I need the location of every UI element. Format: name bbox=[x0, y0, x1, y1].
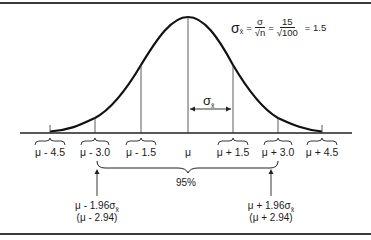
ci-upper-expression: μ + 1.96σ bbox=[248, 200, 291, 211]
fraction-15-over-root-100: 15 √100 bbox=[277, 17, 298, 38]
tick-label-minus-3-0: μ - 3.0 bbox=[80, 146, 110, 158]
std-error-label: σx̄ bbox=[203, 93, 215, 108]
denominator: √n bbox=[255, 28, 266, 38]
result: = 1.5 bbox=[305, 22, 326, 33]
ci-lower-value: (μ - 2.94) bbox=[75, 212, 119, 223]
sigma-symbol: σ bbox=[203, 93, 211, 108]
xbar-subscript: x̄ bbox=[291, 206, 295, 213]
ci-lower-expression: μ - 1.96σ bbox=[75, 200, 115, 211]
ci-upper-value: (μ + 2.94) bbox=[248, 212, 294, 223]
equals-sign: = bbox=[268, 22, 274, 33]
denominator: √100 bbox=[277, 28, 298, 38]
tick-label-plus-3-0: μ + 3.0 bbox=[262, 146, 295, 158]
tick-label-mu: μ bbox=[185, 146, 191, 158]
xbar-subscript: x̄ bbox=[211, 102, 215, 109]
xbar-subscript: x̄ bbox=[115, 206, 119, 213]
standard-error-formula: σx̄ = σ √n = 15 √100 = 1.5 bbox=[231, 17, 326, 38]
ci-lower-label: μ - 1.96σx̄ (μ - 2.94) bbox=[75, 200, 119, 223]
tick-braces bbox=[35, 138, 337, 145]
tick-label-plus-1-5: μ + 1.5 bbox=[217, 146, 250, 158]
equals-sign: = bbox=[246, 22, 252, 33]
tick-label-minus-4-5: μ - 4.5 bbox=[35, 146, 65, 158]
sigma-symbol: σ bbox=[231, 20, 240, 36]
xbar-subscript: x̄ bbox=[240, 28, 244, 35]
confidence-brace bbox=[97, 161, 278, 173]
tick-label-plus-4-5: μ + 4.5 bbox=[306, 146, 339, 158]
confidence-percent-label: 95% bbox=[176, 177, 196, 188]
ci-upper-label: μ + 1.96σx̄ (μ + 2.94) bbox=[248, 200, 294, 223]
tick-label-minus-1-5: μ - 1.5 bbox=[126, 146, 156, 158]
fraction-sigma-over-root-n: σ √n bbox=[255, 17, 266, 38]
